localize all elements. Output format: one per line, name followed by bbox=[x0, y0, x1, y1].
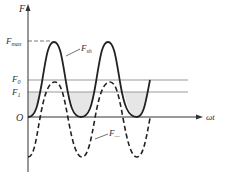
fminus-leader-line bbox=[95, 134, 108, 139]
fminus-curve-label: F— bbox=[108, 128, 121, 139]
diagram-canvas: F Fmax F0 F1 O ωt Fsh F— bbox=[0, 0, 226, 180]
x-axis-arrow-icon bbox=[196, 115, 203, 120]
fsh-curve-label: Fsh bbox=[80, 43, 92, 54]
y-axis-arrow-icon bbox=[26, 4, 31, 11]
f1-label: F1 bbox=[11, 87, 21, 98]
fmax-label: Fmax bbox=[5, 36, 22, 47]
x-axis-label: ωt bbox=[206, 112, 215, 122]
origin-label: O bbox=[16, 112, 23, 123]
waveform-svg: F Fmax F0 F1 O ωt Fsh F— bbox=[0, 0, 226, 180]
y-axis-label: F bbox=[18, 3, 26, 14]
fsh-leader-line bbox=[66, 49, 80, 56]
f0-label: F0 bbox=[11, 74, 21, 85]
